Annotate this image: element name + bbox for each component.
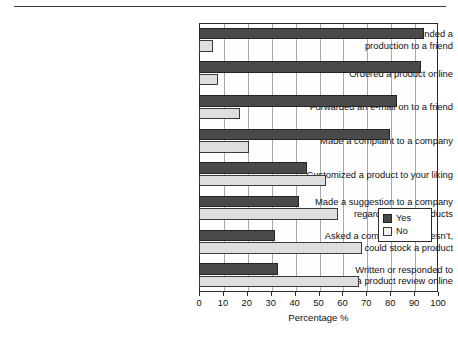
x-tick: [390, 292, 391, 296]
x-tick-label: 100: [425, 297, 451, 308]
bar-yes: [199, 95, 397, 107]
x-tick-label: 50: [306, 297, 332, 308]
x-tick: [366, 292, 367, 296]
x-tick-label: 10: [210, 297, 236, 308]
x-tick: [223, 292, 224, 296]
x-tick: [271, 292, 272, 296]
bar-yes: [199, 196, 299, 208]
bar-yes: [199, 61, 421, 73]
x-tick-label: 70: [353, 297, 379, 308]
bar-yes: [199, 263, 278, 275]
x-axis-title: Percentage %: [199, 312, 438, 323]
x-tick: [319, 292, 320, 296]
legend-item-yes: Yes: [383, 212, 431, 225]
x-tick: [295, 292, 296, 296]
x-tick: [247, 292, 248, 296]
bar-yes: [199, 162, 307, 174]
bar-yes: [199, 230, 275, 242]
x-tick-label: 90: [401, 297, 427, 308]
legend-label-no: No: [396, 226, 408, 237]
top-divider-rule: [14, 6, 446, 7]
x-tick-label: 80: [377, 297, 403, 308]
x-tick-label: 20: [234, 297, 260, 308]
bar-no: [199, 141, 249, 153]
x-tick-label: 40: [282, 297, 308, 308]
legend-item-no: No: [383, 225, 431, 238]
bar-no: [199, 40, 213, 52]
x-tick-label: 30: [258, 297, 284, 308]
bar-yes: [199, 129, 390, 141]
x-tick-label: 60: [329, 297, 355, 308]
chart-legend: Yes No: [378, 208, 432, 242]
bar-no: [199, 276, 359, 288]
x-tick: [199, 292, 200, 296]
legend-label-yes: Yes: [396, 213, 411, 224]
bar-no: [199, 74, 218, 86]
bar-no: [199, 242, 362, 254]
bar-no: [199, 108, 240, 120]
bar-yes: [199, 28, 424, 40]
bar-chart-figure: Recommended a production to a friendOrde…: [0, 0, 458, 343]
x-tick: [438, 292, 439, 296]
bar-no: [199, 175, 326, 187]
legend-swatch-yes-icon: [383, 214, 392, 223]
bar-no: [199, 208, 338, 220]
x-tick: [414, 292, 415, 296]
legend-swatch-no-icon: [383, 227, 392, 236]
x-tick-label: 0: [186, 297, 212, 308]
x-tick: [342, 292, 343, 296]
